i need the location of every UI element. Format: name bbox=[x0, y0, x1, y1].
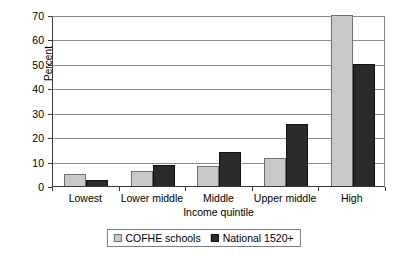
bar-group bbox=[319, 17, 386, 186]
x-tick-label-upper-middle: Upper middle bbox=[254, 192, 316, 204]
y-tick-label-30: 30 bbox=[32, 109, 44, 119]
x-tick-mark bbox=[185, 187, 186, 191]
bar-middle-series-0 bbox=[197, 166, 219, 186]
plot-area bbox=[52, 16, 385, 187]
x-tick-mark bbox=[119, 187, 120, 191]
bar-high-series-1 bbox=[353, 64, 375, 186]
x-tick-mark bbox=[252, 187, 253, 191]
legend-label: National 1520+ bbox=[223, 232, 294, 244]
legend-item-national-1520: National 1520+ bbox=[211, 232, 294, 244]
y-tick-label-10: 10 bbox=[32, 158, 44, 168]
bar-high-series-0 bbox=[331, 15, 353, 186]
y-axis-ticks: 010203040506070 bbox=[0, 0, 52, 188]
chart-legend: COFHE schoolsNational 1520+ bbox=[106, 229, 300, 247]
bar-upper-middle-series-0 bbox=[264, 158, 286, 186]
y-tick-label-0: 0 bbox=[38, 182, 44, 192]
x-tick-label-lower-middle: Lower middle bbox=[121, 192, 183, 204]
bar-groups bbox=[53, 17, 384, 186]
bar-group bbox=[120, 17, 187, 186]
x-tick-mark bbox=[52, 187, 53, 191]
x-tick-label-middle: Middle bbox=[203, 192, 234, 204]
x-axis-title: Income quintile bbox=[52, 206, 385, 218]
legend-swatch-icon bbox=[211, 234, 219, 242]
legend-swatch-icon bbox=[113, 234, 121, 242]
y-tick-label-50: 50 bbox=[32, 60, 44, 70]
bar-group bbox=[53, 17, 120, 186]
bar-group bbox=[186, 17, 253, 186]
x-tick-label-high: High bbox=[341, 192, 363, 204]
bar-lower-middle-series-0 bbox=[131, 171, 153, 186]
y-tick-label-40: 40 bbox=[32, 84, 44, 94]
bar-lowest-series-0 bbox=[64, 174, 86, 186]
y-tick-label-60: 60 bbox=[32, 35, 44, 45]
legend-item-cofhe-schools: COFHE schools bbox=[113, 232, 200, 244]
x-tick-label-lowest: Lowest bbox=[69, 192, 102, 204]
bar-middle-series-1 bbox=[219, 152, 241, 186]
y-tick-label-70: 70 bbox=[32, 11, 44, 21]
x-axis-labels: LowestLower middleMiddleUpper middleHigh bbox=[52, 192, 385, 206]
x-tick-mark bbox=[385, 187, 386, 191]
bar-group bbox=[253, 17, 320, 186]
y-tick-label-20: 20 bbox=[32, 133, 44, 143]
legend-label: COFHE schools bbox=[125, 232, 200, 244]
bar-chart-figure: Percent 010203040506070 LowestLower midd… bbox=[0, 0, 407, 260]
bar-upper-middle-series-1 bbox=[286, 124, 308, 186]
bar-lowest-series-1 bbox=[86, 180, 108, 186]
bar-lower-middle-series-1 bbox=[153, 165, 175, 186]
x-tick-mark bbox=[318, 187, 319, 191]
